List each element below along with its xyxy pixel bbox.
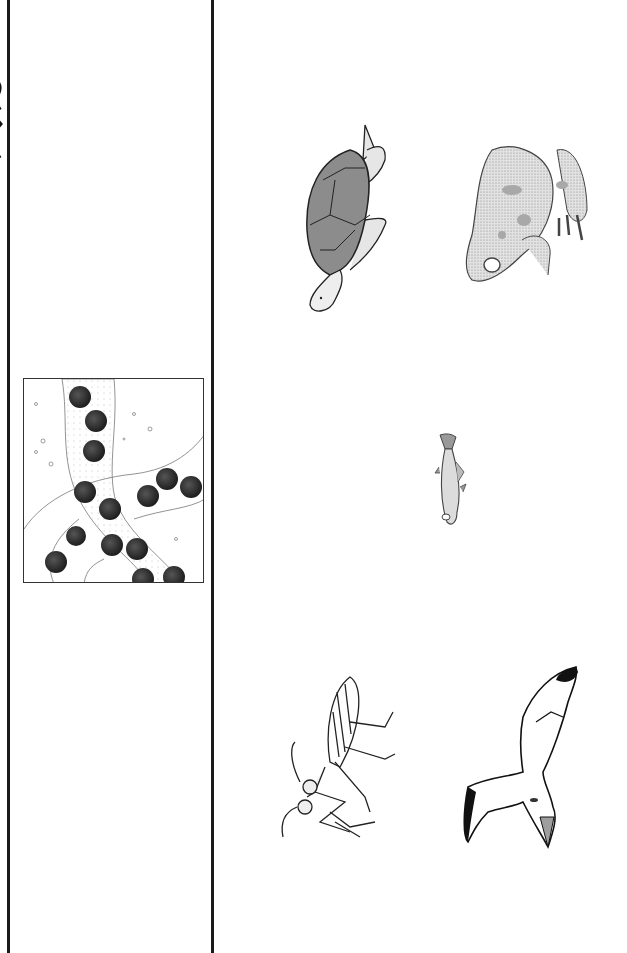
cropped-edge-text <box>0 0 4 200</box>
column-divider-line <box>211 0 214 953</box>
left-border-line <box>7 0 10 953</box>
sea-turtle-illustration <box>295 120 395 320</box>
mantis-insect-illustration <box>275 672 420 847</box>
seagull-illustration <box>458 662 583 852</box>
eggs-drawing <box>24 379 204 583</box>
frog-eggs-illustration <box>23 378 204 583</box>
fish-illustration <box>432 432 472 532</box>
frog-illustration <box>462 140 597 300</box>
